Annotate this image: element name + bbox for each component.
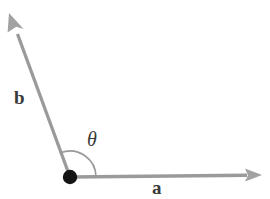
vector-a-label: a bbox=[152, 177, 162, 198]
diagram-canvas: b a θ bbox=[0, 0, 270, 199]
vector-b-label: b bbox=[14, 87, 25, 108]
vector-angle-diagram: b a θ bbox=[0, 0, 270, 199]
origin-vertex-dot bbox=[63, 170, 77, 184]
theta-angle-label: θ bbox=[87, 128, 97, 150]
